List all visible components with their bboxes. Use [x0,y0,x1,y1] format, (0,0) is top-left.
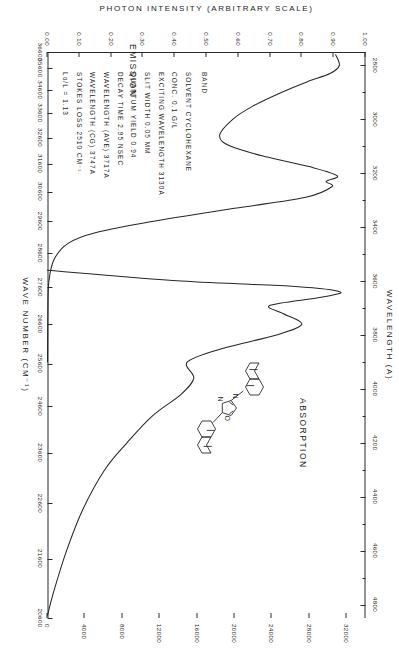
wavenumber-tick [47,503,52,504]
wavenumber-tick-label: 24600 [36,397,43,416]
wavelength-tick-label: 4000 [371,381,378,396]
wavenumber-tick-label: 22600 [36,494,43,513]
photon-intensity-tick [237,52,238,57]
atom-label-o: O [224,416,231,422]
molar-extinction-tick [83,613,84,618]
wavelength-minor-tick [362,92,365,93]
wavenumber-tick-label: 27600 [36,278,43,297]
photon-intensity-tick-label: 0.00 [44,32,51,46]
wavenumber-tick [47,90,52,91]
wavenumber-tick-label: 33600 [36,103,43,122]
wavelength-tick [360,605,365,606]
wavelength-tick-label: 4400 [371,489,378,504]
band-label: BAND [200,72,207,94]
photon-intensity-tick [46,52,47,57]
molecular-structure-diagram: N N O [187,345,273,471]
wavelength-minor-tick [362,200,365,201]
molar-extinction-tick-label: 20000 [231,624,238,643]
wavenumber-axis-title: WAVE NUMBER (CM⁻¹) [20,277,29,392]
wavelength-tick [360,551,365,552]
wavelength-tick [360,281,365,282]
wavelength-tick-label: 3200 [371,166,378,181]
wavelength-minor-tick [362,308,365,309]
wavelength-tick [360,227,365,228]
molar-extinction-tick [121,613,122,618]
photon-intensity-tick-label: 0.40 [171,32,178,46]
molar-extinction-tick-label: 28000 [305,624,312,643]
wavenumber-tick-label: 32600 [36,128,43,147]
photon-intensity-tick-label: 0.50 [203,32,210,46]
molar-extinction-tick-label: 24000 [268,624,275,643]
photon-intensity-tick-label: 0.70 [266,32,273,46]
molar-extinction-tick [196,613,197,618]
wavelength-tick [360,65,365,66]
wavelength-minor-tick [362,470,365,471]
figure-canvas: WAVELENGTH (A) WAVE NUMBER (CM⁻¹) PHOTON… [0,0,399,652]
wavelength-tick-label: 4200 [371,435,378,450]
photon-intensity-tick [205,52,206,57]
photon-intensity-tick [332,52,333,57]
wavenumber-tick [47,559,52,560]
wavelength-axis-title: WAVELENGTH (A) [384,290,393,380]
wavenumber-tick-label: 25600 [36,354,43,373]
wavenumber-tick-label: 26600 [36,314,43,333]
wavenumber-tick-label: 23600 [36,443,43,462]
wavelength-tick-label: 4800 [371,597,378,612]
photon-intensity-tick-label: 0.20 [107,32,114,46]
wavenumber-tick-label: 21600 [36,549,43,568]
wavenumber-tick-label: 29600 [36,212,43,231]
wavenumber-tick [47,68,52,69]
wavelength-tick-label: 2800 [371,58,378,73]
wavenumber-tick [47,52,52,53]
absorption-series-label: ABSORPTION [297,398,307,469]
wavenumber-tick [47,113,52,114]
molar-extinction-tick-label: 8000 [118,624,125,639]
photon-intensity-tick-label: 0.60 [234,32,241,46]
molar-extinction-tick-label: 16000 [193,624,200,643]
photon-intensity-tick [141,52,142,57]
photon-intensity-tick [173,52,174,57]
molar-extinction-tick [270,613,271,618]
wavelength-tick [360,389,365,390]
parameter-line: WAVELENGTH (AVE) 3717A [99,72,111,196]
wavelength-tick-label: 4600 [371,543,378,558]
experimental-parameters: SOLVENT CYCLOHEXANECONC. 0.1 G/LEXCITING… [58,72,193,196]
wavelength-tick [360,443,365,444]
wavenumber-tick [47,192,52,193]
wavelength-tick [360,119,365,120]
wavelength-tick [360,173,365,174]
wavelength-tick-label: 3400 [371,220,378,235]
wavenumber-tick [47,221,52,222]
wavelength-minor-tick [362,254,365,255]
parameter-line: SOLVENT CYCLOHEXANE [181,72,193,196]
wavelength-minor-tick [362,362,365,363]
photon-intensity-tick-label: 0.90 [330,32,337,46]
wavenumber-tick [47,253,52,254]
wavenumber-tick [47,287,52,288]
parameter-line: Lo/L = 1.13 [58,72,70,196]
wavenumber-tick-label: 30600 [36,182,43,201]
wavenumber-tick [47,453,52,454]
photon-intensity-tick-label: 0.30 [139,32,146,46]
wavelength-minor-tick [362,146,365,147]
wavelength-minor-tick [362,524,365,525]
molar-extinction-tick-label: 12000 [156,624,163,643]
wavenumber-tick [47,324,52,325]
spectrum-figure: WAVELENGTH (A) WAVE NUMBER (CM⁻¹) PHOTON… [0,0,399,652]
molar-extinction-tick-label: 32000 [343,624,350,643]
parameter-line: SLIT WIDTH 0.05 MM [140,72,152,196]
molar-extinction-tick-label: 0 [44,624,51,628]
atom-label-n2: N [216,397,223,402]
wavenumber-tick-label: 28600 [36,244,43,263]
parameter-line: WAVELENGTH (CG) 3747A [85,72,97,196]
wavenumber-tick [47,164,52,165]
wavelength-tick-label: 3000 [371,112,378,127]
molar-extinction-tick [233,613,234,618]
wavelength-tick [360,335,365,336]
photon-intensity-tick [78,52,79,57]
photon-intensity-tick [269,52,270,57]
molar-extinction-tick-label: 4000 [81,624,88,639]
photon-intensity-axis-title: PHOTON INTENSITY (ARBITRARY SCALE) [99,4,313,13]
wavenumber-tick-label: 20600 [36,608,43,627]
photon-intensity-tick-label: 0.10 [75,32,82,46]
